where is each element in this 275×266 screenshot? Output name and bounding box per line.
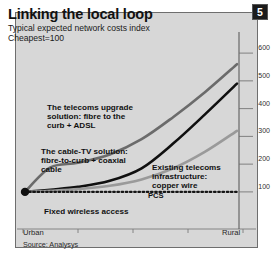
annotation-cable-tv: The cable-TV solution:fibre-to-curb + co…	[41, 147, 128, 175]
y-tick-300: 300	[250, 127, 270, 134]
annotation-pcs: PCS	[148, 192, 164, 201]
annotation-telecoms-upgrade: The telecoms upgradesolution: fibre to t…	[47, 103, 133, 131]
y-tick-200: 200	[250, 155, 270, 162]
y-tick-600: 600	[250, 44, 270, 51]
x-axis-label-rural: Rural	[222, 228, 240, 237]
origin-marker	[21, 188, 29, 196]
y-tick-500: 500	[250, 72, 270, 79]
chart-figure: Linking the local loop Typical expected …	[0, 0, 275, 266]
axes-group	[17, 32, 256, 233]
source-label: Source: Analysys	[23, 240, 78, 249]
y-tick-100: 100	[250, 183, 270, 190]
annotation-existing-telecoms: Existing telecomsinfrastructure:copper w…	[152, 163, 221, 191]
y-tick-400: 400	[250, 100, 270, 107]
annotation-fixed-wireless: Fixed wireless access	[44, 207, 129, 216]
x-axis-label-urban: Urban	[23, 228, 44, 237]
